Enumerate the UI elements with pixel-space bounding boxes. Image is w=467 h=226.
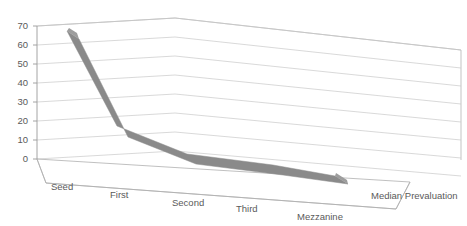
x-label-second: Second: [172, 197, 204, 208]
x-label-mezzanine: Mezzanine: [297, 211, 343, 222]
line-chart-3d: 70 60 50 40 30 20 10 0 Seed First Second…: [0, 0, 467, 226]
gridline-50: [37, 56, 461, 86]
gridline-20: [37, 113, 461, 140]
y-axis: [33, 26, 37, 159]
x-label-third: Third: [236, 203, 258, 214]
y-axis-labels: 70 60 50 40 30 20 10 0: [17, 20, 28, 164]
floor-front-edge: [46, 183, 396, 209]
y-tick-label-60: 60: [17, 39, 28, 50]
y-tick-label-50: 50: [17, 58, 28, 69]
legend-label-median-prevaluation: Median Prevaluation: [371, 190, 458, 201]
y-tick-label-40: 40: [17, 77, 28, 88]
x-label-seed: Seed: [51, 181, 73, 192]
y-tick-label-0: 0: [23, 153, 28, 164]
x-label-first: First: [110, 189, 129, 200]
y-tick-label-70: 70: [17, 20, 28, 31]
gridline-10: [37, 132, 461, 158]
gridline-30: [37, 94, 461, 122]
gridline-60: [37, 37, 461, 68]
legend: Median Prevaluation: [371, 190, 458, 201]
y-tick-label-20: 20: [17, 115, 28, 126]
y-tick-label-30: 30: [17, 96, 28, 107]
chart-container: 70 60 50 40 30 20 10 0 Seed First Second…: [0, 0, 467, 226]
floor-left-edge: [37, 159, 46, 183]
gridlines-group: [37, 18, 461, 176]
y-tick-label-10: 10: [17, 134, 28, 145]
series-line-ribbon: [67, 31, 348, 184]
